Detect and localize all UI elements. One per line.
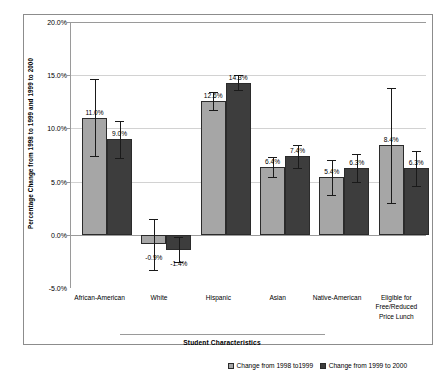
x-axis-category-label: Native-American: [313, 293, 362, 302]
error-bar-cap: [352, 154, 361, 155]
error-bar-cap: [412, 151, 421, 152]
error-bar: [391, 88, 392, 203]
data-label: 11.0%: [85, 109, 103, 116]
bar-group: -0.9%-1.4%: [130, 22, 189, 288]
bar-group: 12.6%14.3%: [190, 22, 249, 288]
legend-label: Change from 1999 to 2000: [329, 362, 407, 369]
data-label: 6.3%: [349, 159, 364, 166]
y-axis-tick-label: 10.0%: [47, 125, 67, 132]
y-axis-tick-label: 5.0%: [51, 178, 67, 185]
error-bar: [120, 121, 121, 158]
y-axis-tick-label: 0.0%: [51, 231, 67, 238]
legend-item[interactable]: Change from 1998 to1999: [228, 362, 313, 369]
x-axis-title: Student Characteristics: [0, 339, 444, 346]
bar-group: 5.4%6.3%: [308, 22, 367, 288]
bar-group: 11.0%9.0%: [71, 22, 130, 288]
error-bar-cap: [234, 90, 243, 91]
legend-label: Change from 1998 to1999: [237, 362, 314, 369]
x-axis-category-label: White: [151, 293, 168, 302]
error-bar: [332, 160, 333, 195]
error-bar-cap: [412, 186, 421, 187]
bar[interactable]: [201, 101, 226, 235]
error-bar: [154, 219, 155, 270]
legend-swatch-icon: [320, 363, 326, 369]
data-label: 6.3%: [409, 159, 424, 166]
x-axis-rule: [120, 334, 325, 335]
error-bar-cap: [115, 158, 124, 159]
data-label: 9.0%: [112, 130, 127, 137]
error-bar-cap: [293, 168, 302, 169]
data-label: 12.6%: [204, 92, 223, 99]
x-axis-category-label: African-American: [74, 293, 125, 302]
error-bar-cap: [268, 177, 277, 178]
error-bar-cap: [90, 79, 99, 80]
error-bar-cap: [387, 203, 396, 204]
error-bar: [179, 237, 180, 263]
plot-area: 20.0%15.0%10.0%5.0%0.0%-5.0% 11.0%9.0%-0…: [70, 22, 426, 288]
data-label: -1.4%: [170, 260, 187, 267]
legend-swatch-icon: [228, 363, 234, 369]
y-axis-title: Percentage Change from 1998 to 1999 and …: [27, 39, 34, 249]
data-label: 5.4%: [324, 168, 339, 175]
bar[interactable]: [226, 83, 251, 235]
error-bar-cap: [174, 237, 183, 238]
error-bar-cap: [115, 121, 124, 122]
chart-container: Percentage Change from 1998 to 1999 and …: [0, 0, 444, 383]
x-axis-category-label: Hispanic: [206, 293, 231, 302]
x-axis-category-label: Asian: [269, 293, 286, 302]
error-bar-cap: [149, 270, 158, 271]
data-label: 7.4%: [290, 147, 305, 154]
error-bar-cap: [149, 219, 158, 220]
bar-group: 8.4%6.3%: [368, 22, 427, 288]
bar-group: 6.4%7.4%: [249, 22, 308, 288]
chart-legend: Change from 1998 to1999Change from 1999 …: [228, 362, 407, 369]
error-bar: [416, 151, 417, 186]
y-axis-tick-label: 20.0%: [47, 19, 67, 26]
y-axis-tick-label: -5.0%: [49, 285, 67, 292]
error-bar-cap: [387, 88, 396, 89]
data-label: 14.3%: [229, 74, 248, 81]
error-bar-cap: [327, 160, 336, 161]
error-bar-cap: [90, 156, 99, 157]
error-bar-cap: [327, 195, 336, 196]
data-label: 8.4%: [384, 136, 399, 143]
error-bar: [95, 79, 96, 156]
bar-groups: 11.0%9.0%-0.9%-1.4%12.6%14.3%6.4%7.4%5.4…: [71, 22, 426, 288]
y-axis-tick-label: 15.0%: [47, 72, 67, 79]
error-bar-cap: [209, 110, 218, 111]
data-label: 6.4%: [265, 158, 280, 165]
error-bar-cap: [352, 182, 361, 183]
x-axis-category-label: Eligible for Free/Reduced Price Lunch: [375, 293, 417, 321]
legend-item[interactable]: Change from 1999 to 2000: [320, 362, 407, 369]
data-label: -0.9%: [145, 254, 162, 261]
